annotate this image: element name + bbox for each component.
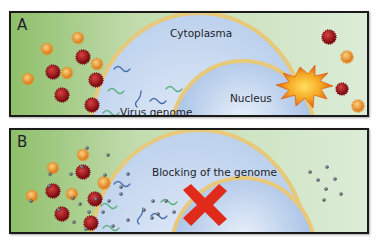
panel-letter-b: B [17,133,27,151]
nucleus-label: Nucleus [230,92,272,104]
panel-b: B Blocking of the genome [9,128,369,234]
virus-genome-label: Virus genome [120,106,193,117]
panel-letter-a: A [17,16,27,34]
panel-b-illustration [11,130,367,232]
panel-a: A Cytoplasma Nucleus Virus genome [9,11,369,117]
blocking-label: Blocking of the genome [152,166,277,178]
cytoplasm-label: Cytoplasma [170,27,232,39]
